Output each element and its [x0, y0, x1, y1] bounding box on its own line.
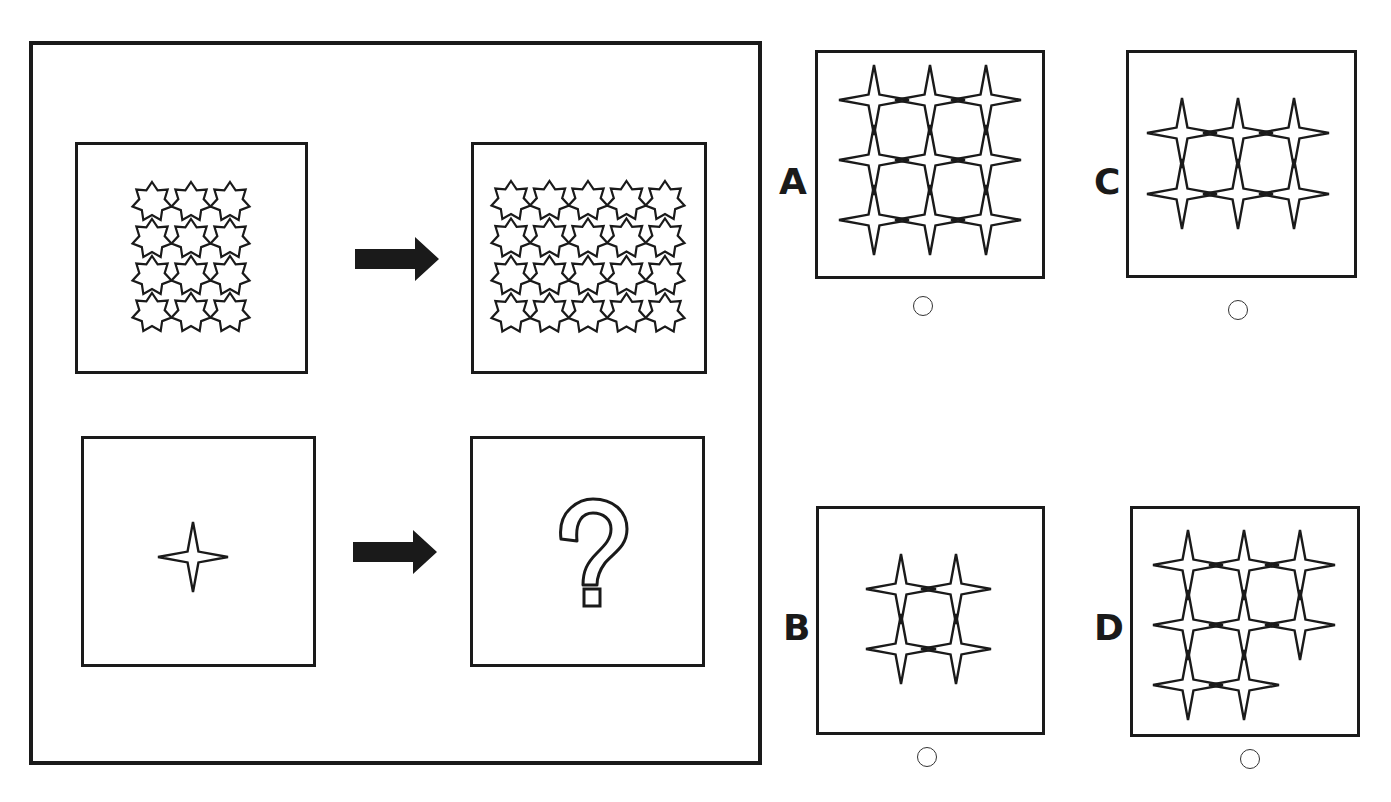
option-b-panel[interactable]	[816, 506, 1045, 735]
option-b-radio[interactable]	[917, 747, 937, 767]
four-point-star-grid-2x2	[819, 509, 1048, 738]
seven-point-star-icon	[172, 182, 211, 220]
seven-point-star-icon	[133, 219, 172, 257]
seven-point-star-icon	[646, 294, 685, 332]
seven-point-star-icon	[569, 219, 608, 257]
seven-point-star-icon	[492, 219, 531, 257]
seven-point-star-icon	[607, 219, 646, 257]
seven-point-star-icon	[133, 293, 172, 331]
option-label-a: A	[779, 164, 807, 200]
arrow-right-icon	[355, 237, 441, 281]
four-point-star-grid-3x2	[1129, 53, 1360, 281]
seven-point-star-icon	[172, 256, 211, 294]
option-label-c: C	[1094, 164, 1120, 200]
four-point-star-icon	[158, 522, 228, 592]
seven-point-star-icon	[172, 219, 211, 257]
query-input-panel	[81, 436, 316, 667]
four-point-star-staircase-8	[1133, 509, 1363, 740]
seven-point-star-icon	[646, 219, 685, 257]
seven-point-star-icon	[530, 181, 569, 219]
example-input-panel	[75, 142, 308, 374]
seven-point-star-icon	[530, 256, 569, 294]
seven-point-star-icon	[492, 181, 531, 219]
seven-point-star-icon	[133, 256, 172, 294]
seven-point-star-icon	[646, 256, 685, 294]
seven-point-star-grid-5x4	[474, 145, 710, 377]
option-d-panel[interactable]	[1130, 506, 1360, 737]
seven-point-star-icon	[172, 293, 211, 331]
option-a-radio[interactable]	[913, 296, 933, 316]
seven-point-star-icon	[133, 182, 172, 220]
option-label-d: D	[1094, 610, 1124, 646]
seven-point-star-icon	[569, 294, 608, 332]
seven-point-star-icon	[492, 294, 531, 332]
seven-point-star-grid-3x4	[78, 145, 311, 377]
question-mark-icon	[473, 439, 708, 670]
seven-point-star-icon	[211, 293, 250, 331]
four-point-star-single	[84, 439, 319, 670]
seven-point-star-icon	[607, 294, 646, 332]
option-d-radio[interactable]	[1240, 749, 1260, 769]
option-c-panel[interactable]	[1126, 50, 1357, 278]
seven-point-star-icon	[492, 256, 531, 294]
seven-point-star-icon	[607, 256, 646, 294]
four-point-star-grid-3x3	[818, 53, 1048, 282]
seven-point-star-icon	[211, 219, 250, 257]
seven-point-star-icon	[211, 182, 250, 220]
seven-point-star-icon	[211, 256, 250, 294]
seven-point-star-icon	[530, 219, 569, 257]
option-label-b: B	[783, 610, 810, 646]
arrow-right-icon	[353, 530, 439, 574]
seven-point-star-icon	[607, 181, 646, 219]
seven-point-star-icon	[530, 294, 569, 332]
option-c-radio[interactable]	[1228, 300, 1248, 320]
seven-point-star-icon	[569, 256, 608, 294]
seven-point-star-icon	[646, 181, 685, 219]
query-output-panel	[470, 436, 705, 667]
option-a-panel[interactable]	[815, 50, 1045, 279]
seven-point-star-icon	[569, 181, 608, 219]
example-output-panel	[471, 142, 707, 374]
